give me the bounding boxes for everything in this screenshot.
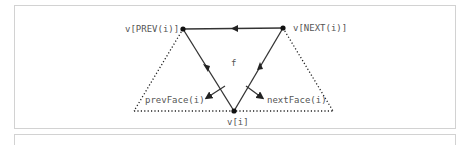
label-prev-face: prevFace(i) [145,95,205,105]
face-pointer-arrows [208,86,261,97]
label-v-prev: v[PREV(i)] [125,24,179,34]
label-v-next: v[NEXT(i)] [293,23,347,33]
label-v-i: v[i] [227,117,249,127]
mesh-face-diagram: v[PREV(i)] v[NEXT(i)] f prevFace(i) next… [0,0,471,145]
vertex-i [231,108,236,113]
vertex-prev [180,26,185,31]
vertex-next [280,25,285,30]
label-face: f [231,58,236,68]
label-next-face: nextFace(i) [267,95,327,105]
